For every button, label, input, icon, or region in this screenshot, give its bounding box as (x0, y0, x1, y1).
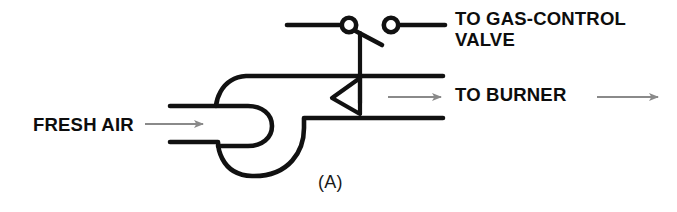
switch-assembly (287, 18, 445, 45)
label-to-burner: TO BURNER (455, 84, 566, 105)
label-to-gas-control-valve: TO GAS-CONTROL VALVE (455, 8, 626, 51)
sail-vane-triangle (332, 78, 360, 114)
volute-lower-scroll (170, 118, 443, 176)
switch-contact-left-icon (342, 18, 356, 32)
figure-caption: (A) (318, 172, 343, 193)
sail-vane (332, 78, 360, 114)
volute-upper-scroll (170, 76, 443, 106)
blower-volute-housing (170, 76, 443, 176)
sail-switch-diagram-figure: TO GAS-CONTROL VALVE TO BURNER FRESH AIR… (0, 0, 677, 212)
inlet-duct-nose (216, 106, 272, 146)
label-fresh-air: FRESH AIR (33, 114, 134, 135)
switch-contact-right-icon (384, 18, 398, 32)
